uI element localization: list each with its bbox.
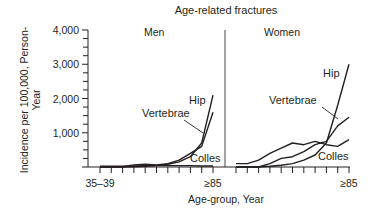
y-tick-label: 4,000 xyxy=(53,24,79,36)
y-axis-title: Incidence per 100,000, Person- Year xyxy=(18,26,42,173)
men-colles-line xyxy=(100,166,213,167)
x-tick-label: ≥85 xyxy=(204,177,222,189)
annotation-women-colles: Colles xyxy=(318,150,349,162)
annotation-women-vertebrae: Vertebrae xyxy=(269,94,317,106)
y-axis-title-line1: Incidence per 100,000, Person- xyxy=(18,26,30,173)
annotation-men-hip: Hip xyxy=(189,94,206,106)
y-tick-label: 3,000 xyxy=(53,58,79,70)
x-axis-title: Age-group, Year xyxy=(188,193,264,205)
x-tick-label: 35–39 xyxy=(85,177,114,189)
x-tick-label: ≥85 xyxy=(340,177,358,189)
y-axis: 1,0002,0003,0004,000 xyxy=(53,24,88,167)
fracture-incidence-chart: Age-related fractures Incidence per 100,… xyxy=(0,0,370,217)
panel-label-men: Men xyxy=(144,26,165,38)
y-tick-label: 1,000 xyxy=(53,127,79,139)
y-axis-title-line2: Year xyxy=(30,89,42,111)
panel-label-women: Women xyxy=(264,26,300,38)
y-tick-label: 2,000 xyxy=(53,93,79,105)
annotation-women-hip: Hip xyxy=(323,67,340,79)
annotation-men-vertebrae: Vertebrae xyxy=(142,107,190,119)
leader-men-vertebrae xyxy=(184,120,203,133)
chart-title: Age-related fractures xyxy=(175,4,278,16)
annotation-men-colles: Colles xyxy=(190,152,221,164)
x-axis: 35–39≥85≥85 xyxy=(85,167,357,189)
